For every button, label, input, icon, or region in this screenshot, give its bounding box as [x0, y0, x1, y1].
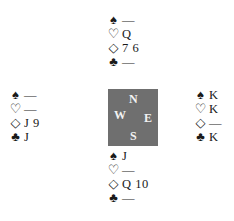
north-diamonds-cards: 7 6 [122, 41, 139, 55]
club-icon: ♣ [8, 130, 23, 144]
north-clubs-row: ♣ — [106, 55, 139, 69]
east-spades-cards: K [209, 88, 219, 102]
north-clubs-cards: — [122, 55, 135, 69]
east-spades-row: ♠ K [193, 88, 222, 102]
east-hearts-cards: K [209, 102, 219, 116]
heart-icon: ♡ [106, 163, 121, 177]
diamond-icon: ◇ [8, 116, 23, 130]
east-diamonds-row: ◇ — [193, 116, 222, 130]
heart-icon: ♡ [193, 102, 208, 116]
heart-icon: ♡ [106, 27, 121, 41]
compass-box: N W E S [108, 89, 158, 146]
diamond-icon: ◇ [193, 116, 208, 130]
north-diamonds-row: ◇ 7 6 [106, 41, 139, 55]
north-hand: ♠ — ♡ Q ◇ 7 6 ♣ — [106, 13, 139, 69]
spade-icon: ♠ [106, 13, 121, 27]
north-spades-row: ♠ — [106, 13, 139, 27]
west-diamonds-cards: J 9 [24, 116, 40, 130]
north-hearts-row: ♡ Q [106, 27, 139, 41]
club-icon: ♣ [106, 191, 121, 205]
south-clubs-cards: — [122, 191, 135, 205]
south-spades-row: ♠ J [106, 149, 149, 163]
north-hearts-cards: Q [122, 27, 132, 41]
south-diamonds-row: ◇ Q 10 [106, 177, 149, 191]
south-clubs-row: ♣ — [106, 191, 149, 205]
spade-icon: ♠ [193, 88, 208, 102]
heart-icon: ♡ [8, 102, 23, 116]
south-diamonds-cards: Q 10 [122, 177, 149, 191]
west-spades-row: ♠ — [8, 88, 40, 102]
compass-south-label: S [130, 130, 137, 142]
compass-east-label: E [144, 112, 152, 124]
south-hand: ♠ J ♡ — ◇ Q 10 ♣ — [106, 149, 149, 205]
east-clubs-row: ♣ K [193, 130, 222, 144]
diamond-icon: ◇ [106, 41, 121, 55]
south-spades-cards: J [122, 149, 127, 163]
west-hearts-cards: — [24, 102, 37, 116]
south-hearts-row: ♡ — [106, 163, 149, 177]
compass-west-label: W [114, 109, 126, 121]
compass-north-label: N [129, 93, 138, 105]
west-clubs-cards: J [24, 130, 29, 144]
club-icon: ♣ [106, 55, 121, 69]
south-hearts-cards: — [122, 163, 135, 177]
east-clubs-cards: K [209, 130, 219, 144]
east-hearts-row: ♡ K [193, 102, 222, 116]
spade-icon: ♠ [8, 88, 23, 102]
west-diamonds-row: ◇ J 9 [8, 116, 40, 130]
spade-icon: ♠ [106, 149, 121, 163]
west-spades-cards: — [24, 88, 37, 102]
east-diamonds-cards: — [209, 116, 222, 130]
north-spades-cards: — [122, 13, 135, 27]
club-icon: ♣ [193, 130, 208, 144]
west-clubs-row: ♣ J [8, 130, 40, 144]
west-hand: ♠ — ♡ — ◇ J 9 ♣ J [8, 88, 40, 144]
diamond-icon: ◇ [106, 177, 121, 191]
east-hand: ♠ K ♡ K ◇ — ♣ K [193, 88, 222, 144]
west-hearts-row: ♡ — [8, 102, 40, 116]
